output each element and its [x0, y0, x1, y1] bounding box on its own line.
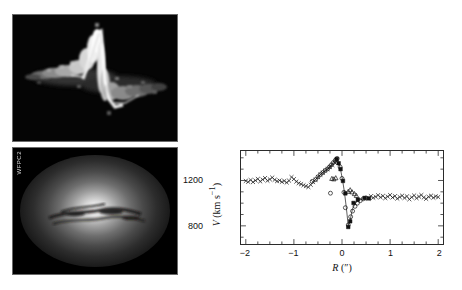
image-panels: STIS WFPC2: [12, 14, 178, 275]
panel-label-wfpc2: WFPC2: [16, 151, 22, 175]
x-tick-label: −2: [240, 248, 250, 258]
series-2: [335, 157, 371, 229]
wfpc2-galaxy-image: WFPC2: [13, 148, 177, 274]
panel-wfpc2: WFPC2: [12, 147, 178, 275]
rotation-curve-chart: V (km s−1) R (″) −2−10128001200: [196, 140, 454, 285]
panel-stis: STIS: [12, 14, 178, 142]
dust-lane-overlay: [13, 148, 178, 275]
stis-spectrogram: STIS: [13, 15, 177, 141]
series-1: [310, 157, 368, 227]
plot-canvas: [241, 151, 443, 244]
x-axis-label: R (″): [240, 262, 444, 273]
y-tick-label: 1200: [183, 175, 203, 185]
x-tick-label: −1: [288, 248, 298, 258]
stis-spectrogram-data: [13, 15, 178, 142]
x-tick-label: 0: [339, 248, 344, 258]
x-tick-label: 1: [388, 248, 393, 258]
y-axis-label: V (km s−1): [208, 150, 221, 260]
x-tick-label: 2: [437, 248, 442, 258]
plot-frame: [240, 150, 444, 245]
y-tick-label: 800: [188, 221, 203, 231]
